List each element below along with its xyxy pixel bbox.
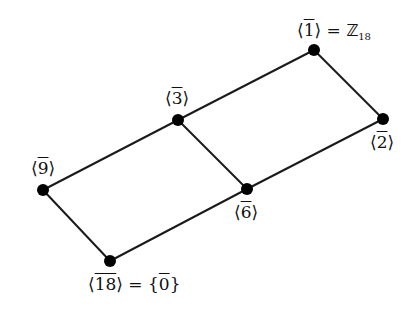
subgroup-lattice-diagram: ⟨1⟩ = ℤ18 ⟨3⟩ ⟨2⟩ ⟨9⟩ ⟨6⟩ ⟨18⟩ = {0} xyxy=(0,0,417,317)
node-subgroup-3 xyxy=(172,114,184,126)
lattice-graph xyxy=(0,0,417,317)
edge-n3-n9 xyxy=(43,120,178,190)
node-subgroup-2 xyxy=(377,113,389,125)
label-subgroup-2: ⟨2⟩ xyxy=(370,134,394,151)
node-subgroup-18 xyxy=(104,255,116,267)
lattice-edges xyxy=(43,50,383,261)
label-subgroup-3: ⟨3⟩ xyxy=(165,90,189,107)
node-subgroup-9 xyxy=(37,184,49,196)
edge-n1-n3 xyxy=(178,50,314,120)
label-subgroup-18: ⟨18⟩ = {0} xyxy=(88,276,180,293)
node-subgroup-6 xyxy=(241,183,253,195)
label-subgroup-9: ⟨9⟩ xyxy=(31,160,55,177)
label-subgroup-6: ⟨6⟩ xyxy=(234,204,258,221)
edge-n6-n18 xyxy=(110,189,247,261)
label-subgroup-1: ⟨1⟩ = ℤ18 xyxy=(297,22,371,42)
edge-n3-n6 xyxy=(178,120,247,189)
node-subgroup-1 xyxy=(308,44,320,56)
edge-n1-n2 xyxy=(314,50,383,119)
edge-n9-n18 xyxy=(43,190,110,261)
integers-symbol: ℤ xyxy=(346,21,358,40)
edge-n2-n6 xyxy=(247,119,383,189)
